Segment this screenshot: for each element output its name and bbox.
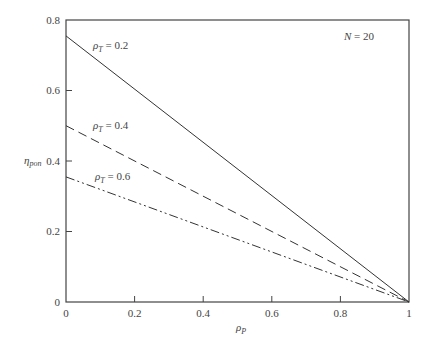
y-tick-0: 0 (55, 296, 61, 308)
y-tick-0.8: 0.8 (46, 14, 60, 26)
x-tick-1: 1 (406, 307, 412, 319)
series-rho-t-0.4 (66, 126, 409, 302)
plot-frame (66, 20, 409, 302)
series-rho-t-0.2 (66, 36, 409, 302)
label-rho-t-0.4: ρT = 0.4 (92, 119, 129, 134)
x-tick-0.6: 0.6 (265, 307, 279, 319)
y-ticks (66, 91, 72, 232)
label-rho-t-0.2: ρT = 0.2 (92, 39, 128, 54)
label-rho-t-0.6: ρT = 0.6 (94, 170, 131, 185)
series-rho-t-0.6 (66, 177, 409, 302)
n-annotation: N = 20 (343, 30, 375, 42)
y-tick-0.4: 0.4 (46, 155, 60, 167)
x-axis-label: ρP (235, 321, 246, 336)
x-tick-0.8: 0.8 (334, 307, 348, 319)
x-ticks (135, 296, 341, 302)
y-tick-0.6: 0.6 (46, 84, 60, 96)
x-tick-0: 0 (63, 307, 69, 319)
y-tick-0.2: 0.2 (46, 225, 60, 237)
chart: 0 0.2 0.4 0.6 0.8 0 0.2 0.4 0.6 0.8 1 ρT… (0, 0, 429, 345)
x-tick-0.4: 0.4 (196, 307, 210, 319)
y-axis-label: ηpon (24, 154, 41, 168)
x-tick-0.2: 0.2 (128, 307, 142, 319)
